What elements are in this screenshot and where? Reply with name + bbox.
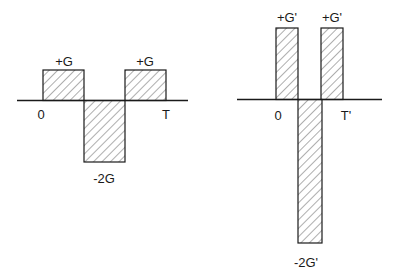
left-label-pos1: +G (55, 55, 73, 68)
left-label-start: 0 (37, 108, 44, 121)
right-waveform (237, 28, 382, 243)
left-pulse-negative (84, 101, 125, 163)
left-label-end: T (162, 108, 170, 121)
right-pulse-positive-1 (276, 28, 298, 100)
right-label-neg: -2G' (294, 256, 318, 269)
left-pulse-positive-1 (43, 70, 84, 101)
right-pulse-positive-2 (321, 28, 343, 100)
right-label-pos1: +G' (277, 11, 297, 24)
right-label-start: 0 (274, 109, 281, 122)
right-label-end: T' (341, 109, 351, 122)
gradient-waveform-diagrams (0, 0, 395, 277)
right-pulse-negative (298, 100, 322, 244)
left-label-neg: -2G (93, 172, 115, 185)
left-pulse-positive-2 (125, 70, 166, 101)
right-label-pos2: +G' (322, 11, 342, 24)
left-label-pos2: +G (136, 55, 154, 68)
